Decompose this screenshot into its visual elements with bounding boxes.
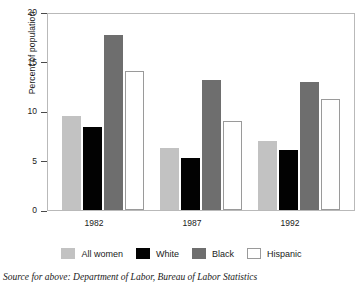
y-tick-mark: [41, 13, 47, 14]
legend-label: Hispanic: [267, 249, 302, 259]
bar-1992-hispanic: [321, 99, 340, 210]
legend-item-all-women[interactable]: All women: [61, 248, 123, 259]
legend-label: White: [156, 249, 179, 259]
y-tick-label: 5: [14, 156, 37, 166]
legend-label: Black: [212, 249, 234, 259]
legend-item-hispanic[interactable]: Hispanic: [247, 248, 302, 259]
legend-swatch-icon: [247, 248, 261, 259]
legend-swatch-icon: [61, 248, 75, 259]
legend-swatch-icon: [136, 248, 150, 259]
bar-1987-all-women: [160, 148, 179, 210]
y-tick-label: 10: [14, 106, 37, 116]
bar-1987-black: [202, 80, 221, 210]
x-tick-label-1982: 1982: [49, 218, 139, 228]
bar-1992-black: [300, 82, 319, 210]
bar-1982-white: [83, 127, 102, 210]
bar-1987-white: [181, 158, 200, 210]
bar-1982-black: [104, 35, 123, 210]
legend-swatch-icon: [192, 248, 206, 259]
y-tick-mark: [41, 161, 47, 162]
y-tick-mark: [41, 211, 47, 212]
y-tick-label: 20: [14, 7, 37, 17]
source-note: Source for above: Department of Labor, B…: [3, 272, 257, 282]
chart-legend: All womenWhiteBlackHispanic: [0, 248, 363, 259]
bar-1992-all-women: [258, 141, 277, 210]
legend-label: All women: [81, 249, 123, 259]
bar-1982-hispanic: [125, 71, 144, 210]
y-tick-mark: [41, 62, 47, 63]
legend-item-black[interactable]: Black: [192, 248, 234, 259]
bar-1987-hispanic: [223, 121, 242, 210]
bars-container: [48, 13, 354, 210]
bar-1992-white: [279, 150, 298, 210]
legend-item-white[interactable]: White: [136, 248, 179, 259]
bar-1982-all-women: [62, 116, 81, 210]
x-tick-label-1987: 1987: [147, 218, 237, 228]
bar-chart-figure: Percent of population 0 5 10 15 20 1982 …: [0, 0, 363, 288]
y-tick-label: 0: [14, 205, 37, 215]
x-tick-label-1992: 1992: [245, 218, 335, 228]
y-tick-mark: [41, 112, 47, 113]
y-tick-label: 15: [14, 57, 37, 67]
